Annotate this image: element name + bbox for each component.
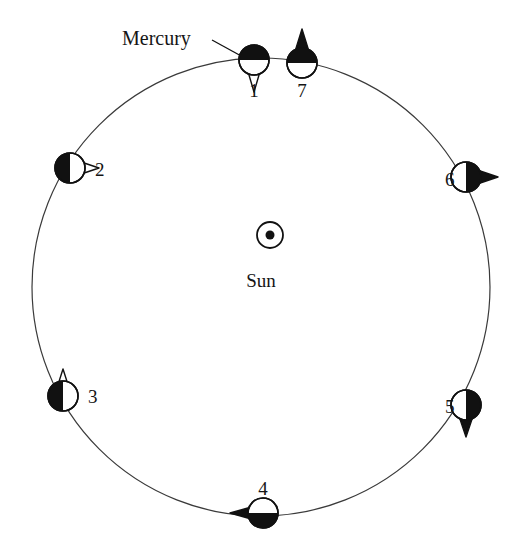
position-marker-2 [55,153,99,183]
marker-shadow-half-2 [55,153,70,183]
position-marker-5 [451,390,481,437]
position-number-5: 5 [445,397,455,416]
position-marker-6 [451,162,498,192]
position-number-4: 4 [258,479,268,498]
marker-shadow-half-4 [248,513,278,528]
marker-shadow-half-3 [48,381,63,411]
mercury-leader-line-segment [212,40,243,57]
mercury-leader-line [212,40,243,57]
position-marker-7 [287,29,317,78]
sun-label: Sun [246,271,276,290]
marker-shadow-half-5 [466,390,481,420]
sun-center-dot [266,231,275,240]
position-number-6: 6 [445,170,455,189]
sun-symbol-icon [257,222,283,248]
position-marker-3 [48,369,78,411]
position-number-1: 1 [249,81,259,100]
position-marker-4 [230,498,278,528]
mercury-label: Mercury [122,28,191,48]
marker-shadow-half-6 [466,162,481,192]
marker-shadow-half-1 [239,45,269,60]
marker-shadow-half-7 [287,48,317,63]
mercury-orbit-diagram: MercurySun1765432 [0,0,516,537]
position-number-7: 7 [297,81,307,100]
position-number-2: 2 [95,160,105,179]
position-number-3: 3 [88,387,98,406]
